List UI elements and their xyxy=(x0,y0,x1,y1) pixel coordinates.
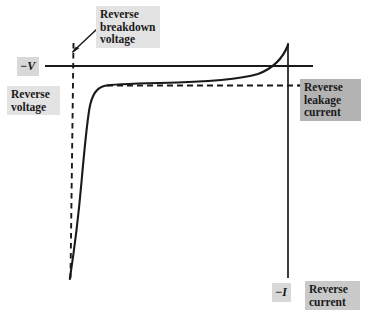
annotation-reverse-leakage-current: Reverse leakage current xyxy=(300,79,361,121)
figure-canvas: Reverse breakdown voltage −V Reverse vol… xyxy=(0,0,370,328)
annotation-reverse-breakdown-voltage: Reverse breakdown voltage xyxy=(96,6,160,48)
arrow-down-left-icon xyxy=(72,29,97,53)
axis-label-minus-v: −V xyxy=(17,57,39,76)
reverse-characteristic-curve xyxy=(70,45,288,279)
breakdown-voltage-dashed-line xyxy=(71,43,74,278)
iv-curve-plot xyxy=(0,0,370,328)
annotation-reverse-voltage: Reverse voltage xyxy=(7,86,60,115)
annotation-reverse-current: Reverse current xyxy=(305,281,360,310)
axis-label-minus-i: −I xyxy=(272,283,291,302)
